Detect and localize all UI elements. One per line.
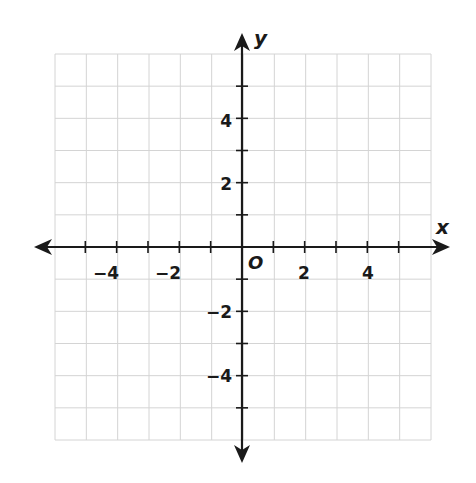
x-tick-label-4: 4 <box>362 263 374 283</box>
y-tick-label-2: 2 <box>220 174 232 194</box>
x-axis-label: x <box>435 215 450 239</box>
coordinate-plane: y x O −4 −2 2 4 4 2 −2 −4 <box>0 0 476 483</box>
y-tick-label-neg4: −4 <box>206 366 232 386</box>
x-tick-label-neg4: −4 <box>93 263 119 283</box>
origin-label: O <box>248 252 263 273</box>
y-tick-label-4: 4 <box>220 111 232 131</box>
x-tick-label-neg2: −2 <box>155 263 181 283</box>
x-tick-label-2: 2 <box>298 263 310 283</box>
y-tick-label-neg2: −2 <box>206 302 232 322</box>
y-axis-label: y <box>254 26 268 50</box>
